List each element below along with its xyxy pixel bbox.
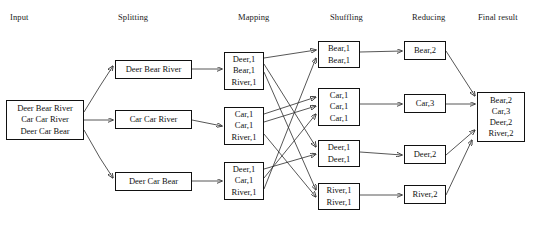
node-line: Bear,1: [233, 65, 255, 76]
input-box: Deer Bear RiverCar Car RiverDeer Car Bea…: [6, 100, 84, 140]
node-line: Bear,2: [490, 95, 512, 106]
node-line: Bear,1: [328, 55, 350, 66]
connector-input_split-2: [84, 130, 113, 178]
node-line: Deer,1: [328, 154, 351, 165]
node-line: River,1: [232, 77, 257, 88]
connector-shuffle_cross-4: [264, 106, 316, 122]
shuffle-box-car: Car,1Car,1Car,1: [318, 88, 360, 126]
node-line: Car Car River: [21, 114, 69, 125]
mapreduce-diagram: Input Splitting Mapping Shuffling Reduci…: [0, 0, 540, 227]
node-line: Car,3: [416, 98, 434, 109]
node-line: Car,1: [330, 101, 348, 112]
node-line: River,2: [489, 128, 514, 139]
node-line: Deer,1: [233, 54, 256, 65]
connector-split_map-1: [192, 120, 222, 126]
reduce-box-deer: Deer,2: [404, 145, 446, 164]
map-box-3: Deer,1Car,1River,1: [224, 162, 264, 200]
node-line: Car,1: [330, 113, 348, 124]
node-line: Car,1: [330, 90, 348, 101]
connector-reduce_final-0: [446, 51, 475, 96]
connector-reduce_final-3: [446, 140, 472, 195]
reduce-box-river: River,2: [404, 185, 446, 204]
connector-shuffle_reduce-2: [360, 152, 402, 155]
connector-shuffle_reduce-0: [360, 51, 402, 52]
connector-shuffle_cross-2: [264, 72, 316, 190]
shuffle-box-deer: Deer,1Deer,1: [318, 140, 360, 167]
node-line: River,1: [232, 187, 257, 198]
node-line: Car,3: [492, 106, 510, 117]
node-line: River,2: [413, 189, 438, 200]
map-box-1: Deer,1Bear,1River,1: [224, 52, 264, 90]
map-box-2: Car,1Car,1River,1: [224, 107, 264, 145]
node-line: Car,1: [235, 120, 253, 131]
node-line: Deer Car Bear: [20, 126, 69, 137]
node-line: Bear,2: [414, 45, 436, 56]
node-line: River,1: [232, 132, 257, 143]
node-line: Deer Car Bear: [129, 176, 178, 187]
reduce-box-car: Car,3: [404, 94, 446, 113]
connector-shuffle_cross-6: [264, 154, 316, 169]
shuffle-box-bear: Bear,1Bear,1: [318, 41, 360, 68]
final-result-box: Bear,2Car,3Deer,2River,2: [477, 92, 525, 142]
node-line: Car,1: [235, 109, 253, 120]
connector-shuffle_cross-0: [264, 50, 316, 58]
node-line: Deer Bear River: [17, 103, 73, 114]
node-line: Bear,1: [328, 43, 350, 54]
node-line: Deer Bear River: [126, 64, 182, 75]
reduce-box-bear: Bear,2: [404, 41, 446, 60]
shuffle-box-river: River,1River,1: [318, 183, 360, 210]
connector-shuffle_cross-3: [264, 97, 316, 114]
node-line: River,1: [327, 197, 352, 208]
node-line: Deer,2: [490, 117, 513, 128]
split-box-3: Deer Car Bear: [115, 172, 192, 191]
node-line: Deer,1: [233, 164, 256, 175]
node-line: Car Car River: [130, 114, 178, 125]
split-box-1: Deer Bear River: [115, 60, 192, 79]
connector-shuffle_cross-5: [264, 134, 316, 197]
connector-input_split-0: [84, 66, 113, 112]
node-line: Deer,1: [328, 142, 351, 153]
node-line: River,1: [327, 185, 352, 196]
split-box-2: Car Car River: [115, 110, 192, 129]
node-line: Deer,2: [414, 149, 437, 160]
node-line: Car,1: [235, 175, 253, 186]
